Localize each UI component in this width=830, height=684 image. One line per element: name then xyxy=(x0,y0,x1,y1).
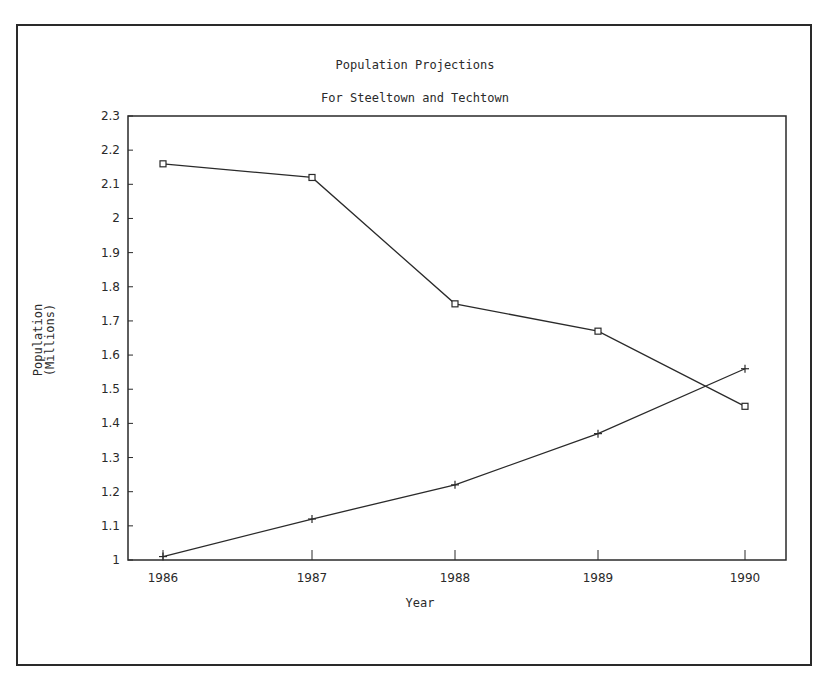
x-tick-label: 1987 xyxy=(297,571,328,585)
plot-area: 11.11.21.31.41.51.61.71.81.922.12.22.319… xyxy=(0,0,830,684)
x-tick-label: 1986 xyxy=(148,571,179,585)
y-tick-label: 2.2 xyxy=(101,143,120,157)
square-marker-icon xyxy=(160,161,166,167)
y-tick-label: 1.5 xyxy=(101,382,120,396)
y-tick-label: 2.1 xyxy=(101,177,120,191)
square-marker-icon xyxy=(742,403,748,409)
y-tick-label: 1.6 xyxy=(101,348,120,362)
series-line-steeltown xyxy=(163,164,745,406)
square-marker-icon xyxy=(309,174,315,180)
square-marker-icon xyxy=(452,301,458,307)
y-tick-label: 1.4 xyxy=(101,416,120,430)
y-tick-label: 1.7 xyxy=(101,314,120,328)
y-tick-label: 1 xyxy=(112,553,120,567)
y-tick-label: 2 xyxy=(112,211,120,225)
y-tick-label: 2.3 xyxy=(101,109,120,123)
x-tick-label: 1989 xyxy=(583,571,614,585)
x-tick-label: 1990 xyxy=(730,571,761,585)
series-line-techtown xyxy=(163,369,745,557)
x-tick-label: 1988 xyxy=(440,571,471,585)
plot-border xyxy=(128,116,786,560)
square-marker-icon xyxy=(595,328,601,334)
y-tick-label: 1.9 xyxy=(101,246,120,260)
y-tick-label: 1.3 xyxy=(101,451,120,465)
y-tick-label: 1.8 xyxy=(101,280,120,294)
y-tick-label: 1.2 xyxy=(101,485,120,499)
y-tick-label: 1.1 xyxy=(101,519,120,533)
